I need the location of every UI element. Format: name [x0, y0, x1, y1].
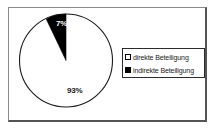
legend-item-direkte-beteiligung: direkte Beteiligung: [125, 51, 202, 63]
legend-label-indirekte-beteiligung: indirekte Beteiligung: [133, 67, 194, 74]
legend-swatch-icon-direkte-beteiligung: [125, 54, 131, 60]
pie-value-label-direkte-beteiligung: 93%: [67, 87, 82, 95]
pie-chart-figure: 7% 93% direkte Beteiligung indirekte Bet…: [0, 0, 216, 133]
legend-item-indirekte-beteiligung: indirekte Beteiligung: [125, 64, 202, 76]
chart-legend: direkte Beteiligung indirekte Beteiligun…: [122, 48, 205, 78]
pie-value-label-indirekte-beteiligung: 7%: [56, 20, 67, 28]
legend-label-direkte-beteiligung: direkte Beteiligung: [133, 54, 189, 61]
legend-swatch-icon-indirekte-beteiligung: [125, 67, 131, 73]
